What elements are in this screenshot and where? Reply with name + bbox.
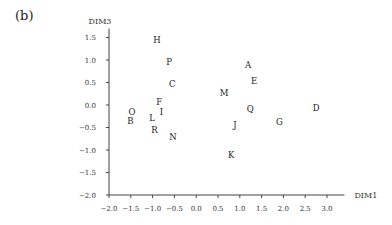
data-point-E: E xyxy=(251,76,257,86)
x-tick-label: −1.0 xyxy=(144,205,161,213)
x-tick-label: 0.5 xyxy=(212,205,223,213)
data-point-N: N xyxy=(169,132,177,142)
data-point-A: A xyxy=(244,60,252,70)
y-tick-label: 0.0 xyxy=(85,102,96,110)
scatter-chart: 1.51.00.50.0−0.5−1.0−1.5−2.0−2.0−1.5−1.0… xyxy=(0,0,392,225)
data-point-J: J xyxy=(232,120,237,130)
x-tick-label: 2.5 xyxy=(300,205,311,213)
data-point-K: K xyxy=(228,150,235,160)
data-point-Q: Q xyxy=(247,104,254,114)
x-tick-label: 1.0 xyxy=(234,205,245,213)
x-tick-label: 2.0 xyxy=(278,205,289,213)
y-tick-label: −1.0 xyxy=(79,147,96,155)
y-tick-label: −0.5 xyxy=(79,124,96,132)
data-point-M: M xyxy=(220,88,229,98)
x-axis-title: DIM1 xyxy=(354,191,377,200)
data-point-C: C xyxy=(169,79,176,89)
x-tick-label: −2.0 xyxy=(101,205,118,213)
y-tick-label: −2.0 xyxy=(79,192,96,200)
data-point-P: P xyxy=(166,57,172,67)
x-tick-label: −1.5 xyxy=(122,205,139,213)
x-tick-label: 1.5 xyxy=(256,205,267,213)
x-tick-label: −0.5 xyxy=(166,205,183,213)
data-point-R: R xyxy=(151,125,158,135)
y-tick-label: −1.5 xyxy=(79,169,96,177)
y-tick-label: 1.0 xyxy=(85,57,96,65)
data-point-F: F xyxy=(156,97,162,107)
x-tick-label: 3.0 xyxy=(321,205,332,213)
y-tick-label: 0.5 xyxy=(85,79,96,87)
y-tick-label: 1.5 xyxy=(85,34,96,42)
data-point-D: D xyxy=(313,103,320,113)
data-point-H: H xyxy=(153,35,160,45)
x-tick-label: 0.0 xyxy=(191,205,202,213)
data-point-G: G xyxy=(276,117,283,127)
data-point-I: I xyxy=(160,107,163,117)
data-point-B: B xyxy=(127,116,133,126)
y-axis-title: DIM3 xyxy=(89,17,112,26)
data-point-L: L xyxy=(149,113,155,123)
